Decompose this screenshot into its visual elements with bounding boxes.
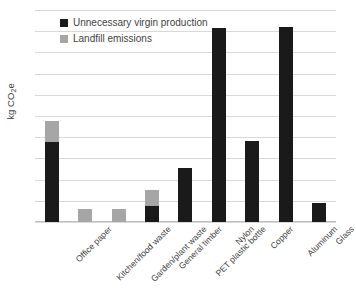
legend-swatch-icon-landfill [60,35,68,43]
bar-segment-virgin [145,206,159,222]
chart-legend: Unnecessary virgin production Landfill e… [60,17,210,48]
legend-item-landfill: Landfill emissions [60,33,210,45]
bar-segment-virgin [212,28,226,222]
bar-segment-virgin [279,27,293,222]
bar-kitchen-food-waste[interactable] [78,209,92,222]
bar-segment-landfill [78,209,92,222]
bar-segment-landfill [112,209,126,222]
bar-slot [303,10,336,222]
x-axis-tick-labels: Office paperKitchen/food wasteGarden/pla… [35,224,336,295]
bar-glass[interactable] [312,203,326,223]
bar-segment-virgin [45,142,59,222]
legend-label-virgin: Unnecessary virgin production [73,17,208,29]
bar-segment-virgin [178,168,192,222]
gridline [35,222,336,223]
bar-nylon[interactable] [212,28,226,222]
bar-garden-plant-waste[interactable] [112,209,126,222]
bar-segment-virgin [245,141,259,222]
bar-segment-virgin [312,203,326,223]
bar-office-paper[interactable] [45,121,59,222]
bar-segment-landfill [45,121,59,142]
legend-swatch-icon-virgin [60,19,68,27]
x-axis-tick-label: Copper [269,224,296,251]
bar-copper[interactable] [245,141,259,222]
bar-general-timber[interactable] [145,190,159,222]
bar-pet-plastic-bottle[interactable] [178,168,192,222]
bar-slot [236,10,269,222]
bar-slot [269,10,302,222]
legend-item-virgin: Unnecessary virgin production [60,17,210,29]
bar-segment-landfill [145,190,159,207]
bar-aluminum[interactable] [279,27,293,222]
x-axis-tick-label: Glass [334,224,356,247]
y-axis-title: kg CO2e [5,68,18,134]
x-axis-tick-label: Office paper [73,224,113,264]
legend-label-landfill: Landfill emissions [73,33,152,45]
